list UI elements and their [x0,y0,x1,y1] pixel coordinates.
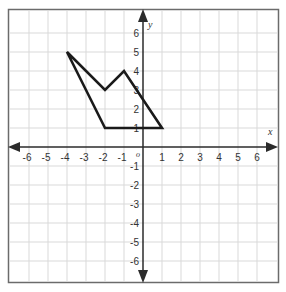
x-tick-label: 1 [159,152,165,163]
y-tick-label: 6 [133,28,139,39]
y-tick-label: -3 [130,199,139,210]
x-tick-label: -2 [99,152,108,163]
x-tick-label: -3 [80,152,89,163]
x-tick-label: 6 [254,152,260,163]
y-tick-label: -5 [130,237,139,248]
x-axis-label: x [267,126,273,137]
y-tick-label: -6 [130,256,139,267]
y-axis-label: y [147,19,153,30]
y-tick-label: 5 [133,47,139,58]
y-tick-label: 2 [133,104,139,115]
x-tick-label: -6 [23,152,32,163]
x-tick-label: -5 [42,152,51,163]
y-tick-label: -1 [130,161,139,172]
y-tick-label: 4 [133,66,139,77]
x-tick-label: 5 [235,152,241,163]
x-tick-label: 4 [216,152,222,163]
x-tick-label: 2 [178,152,184,163]
x-tick-label: 3 [197,152,203,163]
x-tick-label: -4 [61,152,70,163]
origin-label: o [136,150,140,159]
x-tick-label: -1 [118,152,127,163]
y-tick-label: -2 [130,180,139,191]
coordinate-plane: -6-5-4-3-2-1123456654321-1-2-3-4-5-6 x y… [0,0,286,292]
y-tick-label: -4 [130,218,139,229]
